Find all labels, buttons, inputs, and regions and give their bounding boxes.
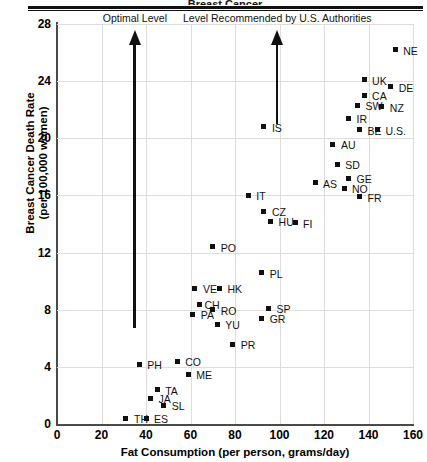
data-point-marker: [123, 416, 128, 421]
gridline-vertical: [235, 24, 236, 424]
data-point-marker: [393, 47, 398, 52]
top-rule: [28, 6, 423, 9]
x-tick-label: 120: [304, 428, 344, 442]
data-point-marker: [266, 306, 271, 311]
data-point-marker: [148, 396, 153, 401]
data-point-marker: [217, 286, 222, 291]
data-point-label: GR: [270, 314, 286, 325]
y-axis-label-line1: Breast Cancer Death Rate: [24, 92, 36, 233]
plot-area: NEUKDECASWNZIRBEU.S.ISAUSDGEASNOFRITCZHU…: [57, 24, 413, 424]
data-point-marker: [375, 127, 380, 132]
data-point-marker: [357, 194, 362, 199]
y-axis-label: Breast Cancer Death Rate (per 100,000 wo…: [24, 78, 50, 248]
gridline-horizontal: [57, 81, 413, 82]
data-point-marker: [362, 77, 367, 82]
data-point-marker: [355, 103, 360, 108]
data-point-marker: [137, 362, 142, 367]
data-point-marker: [186, 372, 191, 377]
data-point-marker: [335, 162, 340, 167]
data-point-label: PR: [241, 340, 256, 351]
data-point-marker: [175, 359, 180, 364]
annotation-label-optimal: Optimal Level: [103, 12, 167, 24]
data-point-label: DE: [399, 83, 414, 94]
data-point-label: IS: [272, 123, 282, 134]
data-point-label: PH: [147, 360, 162, 371]
annotation-label-recommended: Level Recommended by U.S. Authorities: [183, 12, 372, 24]
data-point-marker: [197, 302, 202, 307]
gridline-vertical: [369, 24, 370, 424]
x-tick-label: 100: [260, 428, 300, 442]
gridline-horizontal: [57, 138, 413, 139]
y-axis-label-line2: (per 100,000 women): [37, 106, 49, 219]
data-point-label: FI: [303, 219, 312, 230]
arrow-shaft: [276, 43, 279, 124]
data-point-marker: [259, 316, 264, 321]
data-point-label: YU: [225, 320, 240, 331]
data-point-marker: [346, 176, 351, 181]
data-point-label: IT: [256, 191, 265, 202]
data-point-label: ES: [154, 414, 168, 425]
data-point-label: UK: [372, 76, 387, 87]
data-point-marker: [357, 127, 362, 132]
data-point-label: CO: [185, 357, 201, 368]
y-tick-label: 4: [23, 361, 51, 373]
data-point-label: PL: [270, 269, 283, 280]
data-point-marker: [379, 104, 384, 109]
data-point-marker: [210, 244, 215, 249]
data-point-label: HK: [227, 284, 242, 295]
data-point-marker: [230, 342, 235, 347]
data-point-label: NZ: [390, 103, 404, 114]
gridline-horizontal: [57, 24, 413, 25]
data-point-marker: [313, 180, 318, 185]
gridline-vertical: [102, 24, 103, 424]
data-point-label: NO: [352, 184, 368, 195]
chart-title-clipped: Breast Cancer: [150, 0, 300, 5]
data-point-marker: [388, 84, 393, 89]
x-axis-label: Fat Consumption (per person, grams/day): [57, 446, 413, 458]
gridline-horizontal: [57, 367, 413, 368]
data-point-label: SL: [172, 401, 185, 412]
x-axis-line: [56, 424, 414, 426]
arrow-shaft: [133, 43, 136, 329]
data-point-label: AU: [341, 140, 356, 151]
data-point-marker: [190, 312, 195, 317]
data-point-marker: [362, 93, 367, 98]
data-point-marker: [192, 286, 197, 291]
data-point-marker: [346, 116, 351, 121]
data-point-label: ME: [196, 370, 212, 381]
x-tick-label: 160: [393, 428, 427, 442]
gridline-vertical: [324, 24, 325, 424]
data-point-marker: [342, 186, 347, 191]
x-tick-label: 140: [349, 428, 389, 442]
data-point-marker: [144, 416, 149, 421]
data-point-label: VE: [203, 284, 217, 295]
data-point-marker: [268, 219, 273, 224]
data-point-marker: [261, 209, 266, 214]
data-point-label: HU: [279, 217, 294, 228]
x-tick-label: 20: [82, 428, 122, 442]
data-point-marker: [261, 124, 266, 129]
x-tick-label: 80: [215, 428, 255, 442]
data-point-marker: [330, 142, 335, 147]
data-point-marker: [215, 322, 220, 327]
data-point-label: FR: [368, 193, 382, 204]
x-tick-label: 0: [37, 428, 77, 442]
data-point-marker: [246, 193, 251, 198]
x-tick-label: 40: [126, 428, 166, 442]
data-point-marker: [161, 403, 166, 408]
y-tick-label: 12: [23, 247, 51, 259]
data-point-label: PO: [221, 243, 236, 254]
data-point-label: U.S.: [385, 126, 405, 137]
data-point-label: IR: [356, 114, 367, 125]
data-point-label: RO: [221, 306, 237, 317]
x-tick-label: 60: [171, 428, 211, 442]
data-point-label: PA: [201, 310, 214, 321]
data-point-marker: [293, 220, 298, 225]
chart-root: Breast Cancer NEUKDECASWNZIRBEU.S.ISAUSD…: [0, 0, 427, 462]
data-point-label: NE: [403, 46, 418, 57]
y-tick-label: 8: [23, 304, 51, 316]
data-point-marker: [155, 387, 160, 392]
data-point-label: SD: [345, 160, 360, 171]
data-point-marker: [259, 270, 264, 275]
y-tick-label: 28: [23, 18, 51, 30]
